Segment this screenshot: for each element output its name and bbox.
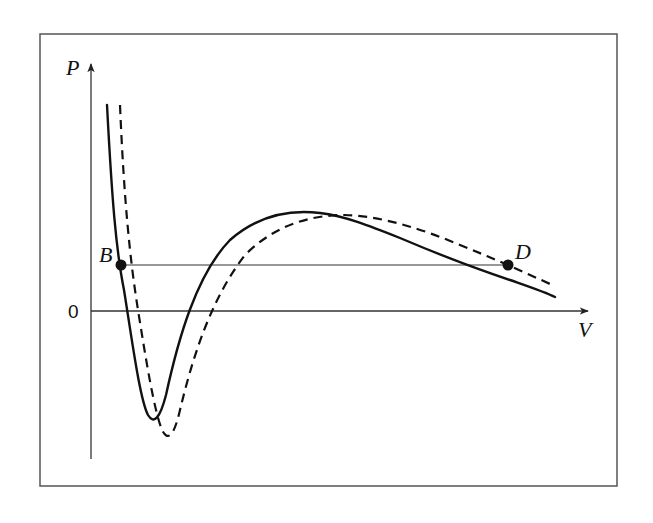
p-axis-label: P	[65, 55, 79, 80]
point-b-label: B	[99, 242, 112, 267]
point-d-label: D	[514, 239, 531, 264]
point-d-marker	[503, 260, 514, 271]
pv-diagram: P V 0 B D	[0, 0, 653, 523]
origin-label: 0	[68, 301, 79, 322]
point-b-marker	[116, 260, 127, 271]
v-axis-label: V	[578, 317, 594, 342]
solid-isotherm-curve	[107, 105, 555, 419]
